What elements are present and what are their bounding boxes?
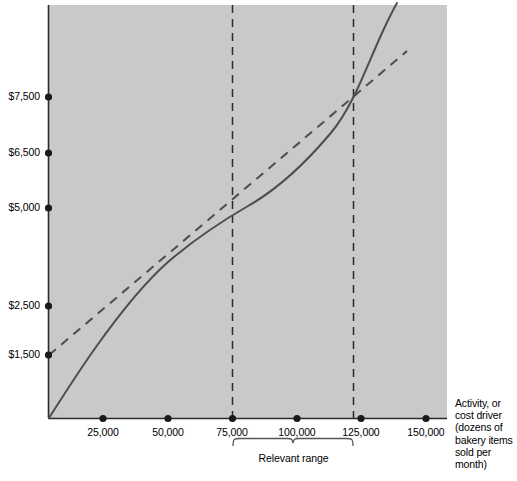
x-tick-marker-50000 — [164, 415, 171, 422]
plot-area-background — [48, 5, 447, 418]
x-tick-marker-150000 — [422, 415, 429, 422]
x-axis-caption-line-1: Activity, or — [455, 397, 517, 409]
x-axis-label-25000: 25,000 — [73, 426, 133, 438]
y-tick-marker-7500 — [45, 93, 52, 100]
y-tick-marker-2500 — [45, 302, 52, 309]
relevant-range-caption: Relevant range — [233, 452, 354, 464]
x-axis-label-125000: 125,000 — [328, 426, 394, 438]
x-tick-marker-75000 — [229, 415, 236, 422]
x-axis-caption-line-6: month) — [455, 458, 517, 470]
x-axis-label-50000: 50,000 — [138, 426, 198, 438]
x-axis-caption-line-3: (dozens of — [455, 421, 517, 433]
x-tick-marker-125000 — [357, 415, 364, 422]
y-tick-marker-5000 — [45, 204, 52, 211]
chart-svg — [0, 0, 517, 481]
x-axis-label-100000: 100,000 — [264, 426, 330, 438]
x-tick-marker-25000 — [99, 415, 106, 422]
y-tick-marker-6500 — [45, 149, 52, 156]
x-axis-caption-line-5: sold per — [455, 446, 517, 458]
y-axis-label-6500: $6,500 — [2, 146, 40, 158]
y-axis-label-7500: $7,500 — [2, 90, 40, 102]
y-axis-label-2500: $2,500 — [2, 299, 40, 311]
cost-behavior-chart: $7,500 $6,500 $5,000 $2,500 $1,500 25,00… — [0, 0, 517, 481]
x-axis-label-150000: 150,000 — [393, 426, 459, 438]
y-axis-label-5000: $5,000 — [2, 201, 40, 213]
y-axis-label-1500: $1,500 — [2, 348, 40, 360]
x-axis-label-75000: 75,000 — [202, 426, 262, 438]
x-axis-caption: Activity, or cost driver (dozens of bake… — [455, 397, 517, 470]
x-axis-caption-line-4: bakery items — [455, 434, 517, 446]
x-tick-marker-100000 — [293, 415, 300, 422]
x-axis-caption-line-2: cost driver — [455, 409, 517, 421]
relevant-range-brace — [233, 439, 353, 447]
y-tick-marker-1500 — [45, 351, 52, 358]
